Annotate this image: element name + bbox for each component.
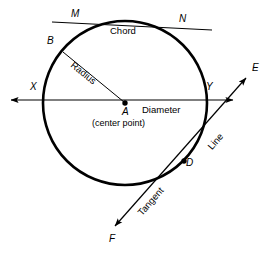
center-point-caption: (center point) bbox=[92, 119, 145, 128]
point-label-f: F bbox=[109, 234, 115, 244]
point-label-m: M bbox=[71, 9, 79, 19]
point-label-x: X bbox=[30, 82, 37, 92]
point-label-n: N bbox=[179, 14, 186, 24]
point-label-y: Y bbox=[206, 82, 213, 92]
point-label-d: D bbox=[186, 158, 193, 168]
diameter-label: Diameter bbox=[142, 105, 181, 115]
geometry-diagram: M N B X Y E A D F Chord Radius Diameter … bbox=[0, 0, 272, 255]
center-point-dot bbox=[122, 100, 127, 105]
point-label-e: E bbox=[252, 63, 259, 73]
point-label-a: A bbox=[122, 107, 129, 117]
chord-label: Chord bbox=[110, 26, 136, 36]
point-label-b: B bbox=[47, 36, 54, 46]
